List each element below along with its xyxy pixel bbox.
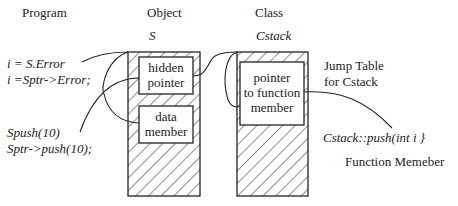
pointer-to-function-label: pointer to function member [240,70,304,115]
program-line-1: i = S.Error [7,56,65,71]
header-program: Program [22,5,67,20]
program-line-2: i =Sptr->Error; [7,72,91,87]
diagram-canvas: Program Object Class S Cstack i = S.Erro… [0,0,458,206]
diagram-graphics [0,0,458,206]
header-object: Object [147,5,182,20]
data-member-label: data member [139,109,193,139]
program-line-4: Sptr->push(10); [7,141,92,156]
jump-table-label-1: Jump Table [324,58,384,73]
function-member-label: Function Memeber [345,154,444,169]
class-name: Cstack [256,28,291,43]
hidden-pointer-label: hidden pointer [139,60,193,90]
jump-table-label-2: for Cstack [324,74,378,89]
header-class: Class [255,5,283,20]
curve-s-error [82,52,128,62]
function-signature: Cstack::push(int i } [323,130,425,145]
curve-to-function [304,92,392,128]
program-line-3: Spush(10) [7,125,60,140]
object-name: S [149,28,156,43]
